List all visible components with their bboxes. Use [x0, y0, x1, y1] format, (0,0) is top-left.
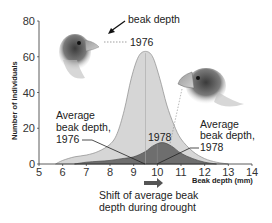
- x-tick-label: 6: [60, 166, 66, 178]
- beak-depth-pointer: [108, 21, 125, 34]
- beak-depth-label: beak depth: [128, 13, 180, 25]
- x-tick-label: 9: [131, 166, 137, 178]
- y-axis-title: Number of individuals: [10, 61, 19, 140]
- y-tick-label: 0: [29, 158, 35, 170]
- y-tick-label: 20: [23, 122, 35, 134]
- avg-1976-line2: beak depth,: [56, 121, 111, 133]
- avg-1978-line3: 1978: [200, 141, 224, 153]
- y-tick-label: 80: [23, 15, 35, 27]
- y-tick-label: 60: [23, 51, 35, 63]
- x-tick-label: 5: [36, 166, 42, 178]
- x-tick-label: 8: [107, 166, 113, 178]
- label-1978: 1978: [148, 131, 172, 143]
- x-tick-label: 11: [175, 166, 186, 178]
- x-tick-label: 7: [83, 166, 89, 178]
- avg-1976-line3: 1976: [56, 133, 80, 145]
- shift-arrow-icon: [144, 178, 163, 188]
- shift-line1: Shift of average beak: [99, 189, 199, 201]
- beak-depth-chart: 567891011121314020406080 beak depth 1976…: [0, 0, 272, 223]
- finch-1976-icon: [59, 34, 99, 79]
- x-tick-label: 10: [151, 166, 163, 178]
- avg-1978-line2: beak depth,: [200, 129, 255, 141]
- x-axis-title: Beak depth (mm): [192, 176, 253, 185]
- shift-line2: depth during drought: [99, 201, 196, 213]
- avg-1976-line1: Average: [56, 109, 95, 121]
- finch-1978-icon: [178, 68, 244, 107]
- y-tick-label: 40: [23, 87, 35, 99]
- label-1976: 1976: [130, 36, 154, 48]
